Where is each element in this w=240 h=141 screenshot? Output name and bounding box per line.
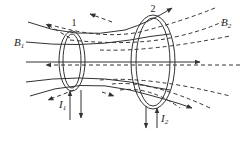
loop-1-label: 1	[72, 17, 77, 28]
current-i1-sub: 1	[63, 104, 67, 112]
loop-1-inner-ring	[63, 34, 81, 88]
loop-2	[131, 15, 175, 128]
b2-line-bottom-mid	[112, 84, 210, 109]
two-current-loops-diagram: 1 2 B1 B2 I1 I2	[0, 0, 240, 141]
field-b2-sub: 2	[228, 22, 232, 30]
b2-line-top-mid	[70, 22, 222, 43]
field-b1-label: B1	[14, 36, 24, 50]
b2-line-upper	[100, 36, 230, 50]
b2-line-bottom-right-arrow	[102, 92, 114, 96]
current-i1-label: I1	[58, 98, 66, 112]
loop-2-label: 2	[151, 3, 156, 14]
b1-line-bottom-inner	[26, 78, 170, 90]
b2-line-top-arrow	[90, 14, 112, 22]
field-b2-label: B2	[221, 16, 232, 30]
b1-line-top-inner	[26, 34, 170, 45]
current-i2-sub: 2	[165, 118, 169, 126]
field-b1-sub: 1	[21, 42, 25, 50]
current-i2-label: I2	[160, 112, 169, 126]
